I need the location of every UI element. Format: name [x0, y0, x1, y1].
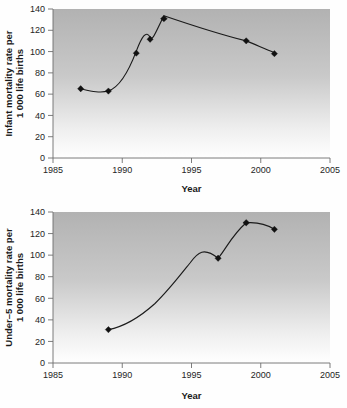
- y-axis-ticks: [48, 212, 53, 363]
- y-axis-title-line2: 1 000 life births: [14, 253, 25, 322]
- x-tick-label: 1995: [181, 370, 201, 380]
- plot-background: [53, 9, 330, 158]
- y-tick-label: 80: [35, 272, 45, 282]
- x-tick-label: 1995: [181, 165, 201, 175]
- plot-background: [53, 212, 330, 363]
- y-tick-label: 40: [35, 111, 45, 121]
- x-axis-ticks: [53, 363, 330, 368]
- x-tick-label: 2005: [320, 165, 340, 175]
- y-tick-label: 140: [30, 4, 45, 14]
- y-tick-label: 60: [35, 89, 45, 99]
- x-axis-tick-labels: 1985 1990 1995 2000 2005: [43, 165, 340, 175]
- y-tick-label: 0: [40, 153, 45, 163]
- x-axis-title: Year: [181, 390, 201, 401]
- y-axis-title-line1: Under–5 mortality rate per: [3, 228, 14, 347]
- x-tick-label: 1985: [43, 370, 63, 380]
- y-tick-label: 20: [35, 337, 45, 347]
- y-axis-title: Infant mortality rate per 1 000 life bir…: [3, 30, 25, 136]
- y-axis-tick-labels: 0 20 40 60 80 100 120 140: [30, 207, 45, 368]
- y-axis-title: Under–5 mortality rate per 1 000 life bi…: [3, 228, 25, 347]
- y-tick-label: 80: [35, 68, 45, 78]
- x-tick-label: 1990: [112, 165, 132, 175]
- x-tick-label: 1990: [112, 370, 132, 380]
- y-tick-label: 120: [30, 25, 45, 35]
- x-axis-title: Year: [181, 183, 201, 194]
- x-tick-label: 2000: [251, 370, 271, 380]
- y-tick-label: 0: [40, 358, 45, 368]
- y-tick-label: 120: [30, 229, 45, 239]
- y-axis-ticks: [48, 9, 53, 158]
- y-tick-label: 100: [30, 250, 45, 260]
- y-axis-title-line1: Infant mortality rate per: [3, 30, 14, 136]
- y-tick-label: 40: [35, 315, 45, 325]
- x-tick-label: 2005: [320, 370, 340, 380]
- y-tick-label: 60: [35, 294, 45, 304]
- x-tick-label: 2000: [251, 165, 271, 175]
- y-axis-tick-labels: 0 20 40 60 80 100 120 140: [30, 4, 45, 163]
- under5-mortality-svg: 0 20 40 60 80 100 120 140 1985 1990 1995: [0, 200, 347, 408]
- infant-mortality-svg: 0 20 40 60 80 100 120 140 1985 1990: [0, 0, 347, 200]
- y-tick-label: 100: [30, 47, 45, 57]
- x-tick-label: 1985: [43, 165, 63, 175]
- figure-page: 0 20 40 60 80 100 120 140 1985 1990: [0, 0, 347, 408]
- under5-mortality-chart: 0 20 40 60 80 100 120 140 1985 1990 1995: [0, 200, 347, 408]
- infant-mortality-chart: 0 20 40 60 80 100 120 140 1985 1990: [0, 0, 347, 200]
- y-tick-label: 20: [35, 132, 45, 142]
- y-axis-title-line2: 1 000 life births: [14, 49, 25, 118]
- x-axis-ticks: [53, 158, 330, 163]
- x-axis-tick-labels: 1985 1990 1995 2000 2005: [43, 370, 340, 380]
- y-tick-label: 140: [30, 207, 45, 217]
